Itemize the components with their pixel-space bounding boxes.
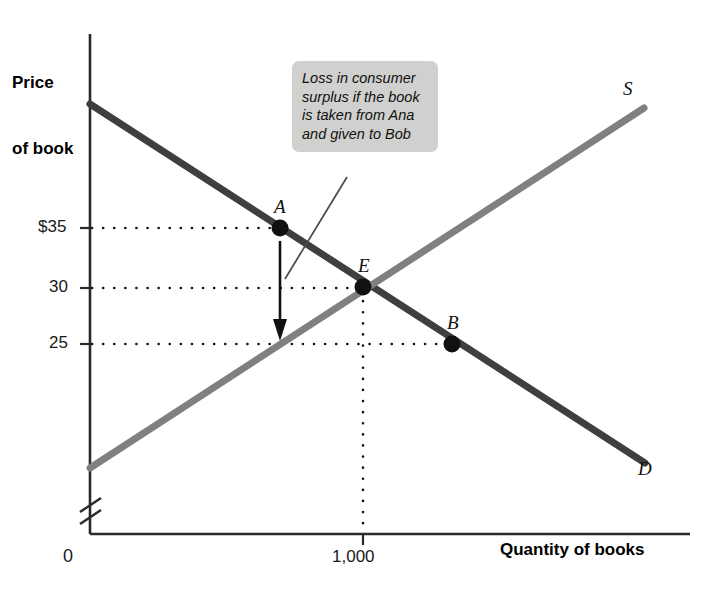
callout-line-3: is taken from Ana <box>302 106 429 125</box>
surplus-loss-arrow-icon <box>273 241 287 341</box>
point-e-label: E <box>358 255 370 277</box>
loss-in-consumer-surplus-callout: Loss in consumer surplus if the book is … <box>292 61 438 152</box>
callout-line-2: surplus if the book <box>302 88 429 107</box>
y-tick-label-35: $35 <box>38 217 66 237</box>
origin-label: 0 <box>63 546 73 567</box>
callout-line-4: and given to Bob <box>302 125 429 144</box>
supply-demand-chart: Price of book Quantity of books $35 30 2… <box>0 0 717 598</box>
supply-curve-label: S <box>623 78 633 100</box>
point-a-marker <box>272 220 289 237</box>
y-tick-label-25: 25 <box>49 333 68 353</box>
point-e-marker <box>355 279 372 296</box>
y-axis-title: Price of book <box>12 28 73 204</box>
y-axis-title-line-2: of book <box>12 138 73 160</box>
demand-curve-label: D <box>638 458 652 480</box>
y-tick-label-30: 30 <box>49 277 68 297</box>
y-axis-title-line-1: Price <box>12 72 73 94</box>
x-tick-label-1000: 1,000 <box>332 547 375 567</box>
point-a-label: A <box>274 196 286 218</box>
callout-line-1: Loss in consumer <box>302 69 429 88</box>
point-b-label: B <box>447 312 459 334</box>
dotted-guides <box>92 228 452 532</box>
y-tick-marks <box>80 228 90 344</box>
x-axis-title: Quantity of books <box>500 540 645 560</box>
point-b-marker <box>444 336 461 353</box>
